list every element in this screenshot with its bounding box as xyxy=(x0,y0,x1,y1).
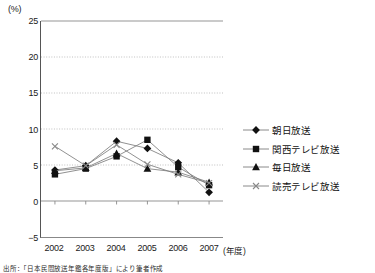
x-tick-label: 2006 xyxy=(169,243,188,253)
chart-legend: 朝日放送関西テレビ放送毎日放送読売テレビ放送 xyxy=(243,121,373,195)
y-tick-label: 15 xyxy=(8,88,38,98)
series-line xyxy=(55,153,209,182)
legend-marker-square-icon xyxy=(243,143,269,155)
series-line xyxy=(55,145,209,183)
chart-figure: (%) 2520151050−5 20022003200420052006200… xyxy=(0,0,375,273)
x-tick-label: 2004 xyxy=(107,243,126,253)
data-point-marker xyxy=(144,137,150,143)
plot-canvas xyxy=(41,21,223,237)
data-point-marker xyxy=(113,150,121,157)
y-axis-unit-label: (%) xyxy=(8,4,21,14)
data-point-marker xyxy=(113,137,121,145)
data-point-marker xyxy=(144,165,152,172)
y-tick-label: −5 xyxy=(8,233,38,243)
data-point-marker xyxy=(52,143,58,149)
y-axis-tick-labels: 2520151050−5 xyxy=(0,21,38,238)
legend-label: 毎日放送 xyxy=(272,160,310,174)
y-tick-label: 5 xyxy=(8,161,38,171)
plot-area xyxy=(40,21,223,238)
y-tick-label: 0 xyxy=(8,197,38,207)
x-tick-label: 2002 xyxy=(45,243,64,253)
legend-item: 毎日放送 xyxy=(243,158,373,177)
legend-label: 朝日放送 xyxy=(272,123,310,137)
legend-item: 朝日放送 xyxy=(243,121,373,140)
x-tick-label: 2003 xyxy=(76,243,95,253)
y-tick-label: 20 xyxy=(8,52,38,62)
data-point-marker xyxy=(144,145,152,153)
source-note: 出所：「日本民間放送年鑑各年度版」により筆者作成 xyxy=(3,263,163,273)
series-line xyxy=(55,140,209,185)
legend-label: 読売テレビ放送 xyxy=(272,179,339,193)
series-diamond xyxy=(51,137,213,196)
x-tick-label: 2005 xyxy=(138,243,157,253)
y-tick-label: 25 xyxy=(8,16,38,26)
x-tick-label: 2007 xyxy=(200,243,219,253)
legend-marker-cross-icon xyxy=(243,180,269,192)
y-tick-label: 10 xyxy=(8,125,38,135)
data-point-marker xyxy=(253,146,259,152)
legend-label: 関西テレビ放送 xyxy=(272,142,339,156)
legend-item: 関西テレビ放送 xyxy=(243,140,373,159)
legend-item: 読売テレビ放送 xyxy=(243,177,373,196)
series-line xyxy=(55,141,209,192)
x-axis-unit-label: (年度) xyxy=(223,244,245,256)
legend-marker-triangle-icon xyxy=(243,161,269,173)
series-square xyxy=(52,137,213,189)
legend-marker-diamond-icon xyxy=(243,124,269,136)
data-point-marker xyxy=(252,126,260,134)
